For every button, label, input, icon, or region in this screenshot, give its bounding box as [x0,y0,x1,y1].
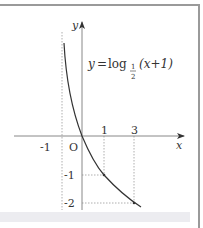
svg-text:=: = [97,57,107,71]
svg-text:2: 2 [131,73,135,81]
svg-text:1: 1 [131,63,135,71]
x-tick-1: 1 [101,124,108,137]
y-axis-label: y [71,19,79,32]
equation-label: y = log 1 2 (x+1) [87,57,173,81]
log-graph: y x O -1 1 3 -1 -2 y = log 1 2 (x+1) [0,0,203,228]
svg-text:log: log [108,57,127,71]
point-1-neg1 [103,174,106,177]
svg-text:y: y [87,57,95,71]
point-3-neg2 [133,202,136,205]
x-tick-neg1: -1 [40,141,51,154]
origin-label: O [69,141,78,154]
x-axis-label: x [176,139,183,152]
svg-text:(x+1): (x+1) [139,57,173,71]
y-tick-neg1: -1 [64,169,75,182]
y-tick-neg2: -2 [64,197,75,210]
x-tick-3: 3 [131,124,138,137]
